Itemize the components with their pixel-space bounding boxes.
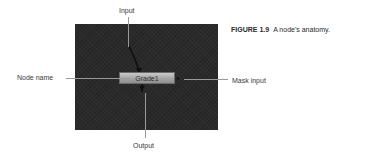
output-arrow-icon xyxy=(139,86,145,90)
figure-caption: FIGURE 1.9A node's anatomy. xyxy=(231,26,330,33)
input-callout-label: Input xyxy=(119,7,135,14)
mask-input-leader-line xyxy=(184,79,228,80)
node-name-leader-line xyxy=(66,78,130,79)
output-callout-label: Output xyxy=(133,142,154,149)
input-leader-line xyxy=(128,17,129,47)
mask-input-dot-icon xyxy=(177,77,179,79)
output-leader-line xyxy=(145,93,146,138)
node-name-label: Grade1 xyxy=(135,75,158,82)
mask-input-callout-label: Mask input xyxy=(232,77,266,84)
input-pipe xyxy=(128,44,139,71)
figure-number: FIGURE 1.9 xyxy=(231,26,269,33)
figure-caption-text: A node's anatomy. xyxy=(273,26,330,33)
node-name-callout-label: Node name xyxy=(17,74,53,81)
